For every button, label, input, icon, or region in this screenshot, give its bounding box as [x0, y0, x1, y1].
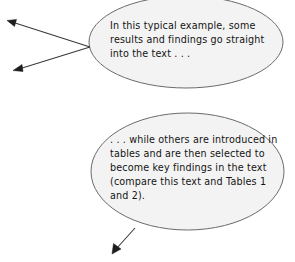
ellipse-bottom-label: . . . while others are introduced in tab…	[110, 133, 280, 203]
arrow-top-lower	[13, 47, 90, 72]
arrow-bottom	[112, 228, 135, 254]
arrow-top-lower-line	[19, 47, 90, 69]
arrow-bottom-line	[117, 228, 135, 248]
ellipse-top-label: In this typical example, some results an…	[110, 19, 282, 61]
arrow-top-upper	[7, 20, 90, 48]
arrow-top-upper-head	[7, 20, 17, 27]
arrow-top-lower-head	[13, 65, 23, 72]
arrow-top-upper-line	[12, 22, 90, 47]
